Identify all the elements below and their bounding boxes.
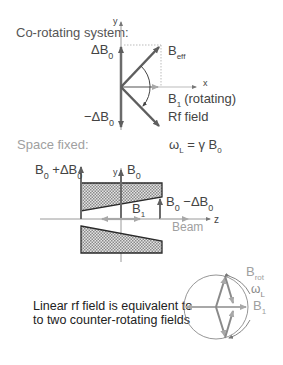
y-axis-label: y (113, 16, 118, 26)
caption-line2: to two counter-rotating fields (33, 313, 190, 327)
b0-minus-label: B0 −ΔB0 (166, 194, 213, 213)
b1-label: B1 (132, 201, 146, 219)
b0-plus-label: B0 +ΔB0 (35, 162, 82, 181)
beam-label: Beam (172, 220, 203, 234)
y-axis-fixed-label: y (113, 167, 118, 177)
b-eff-arrow (121, 47, 159, 87)
z-axis-label: z (214, 214, 219, 225)
b-rot-sum-upper-arrow (225, 276, 233, 303)
minus-delta-b0-label: −ΔB0 (84, 109, 114, 128)
b-rot-up-arrow (216, 278, 225, 307)
rf-field-arrow (121, 87, 159, 126)
b1-linear-label: B1 (253, 298, 267, 316)
caption-line1: Linear rf field is equivalent to (33, 299, 192, 313)
x-axis-label: x (203, 78, 208, 88)
corotating-diagram: Co-rotating system: y x ΔB0 −ΔB0 Beff B1… (16, 16, 236, 130)
delta-b0-label: ΔB0 (91, 42, 113, 61)
b1-rotating-label: B1(rotating) (168, 91, 236, 109)
omega-l-label: ωL (251, 282, 265, 299)
physics-diagram: Co-rotating system: y x ΔB0 −ΔB0 Beff B1… (0, 0, 283, 365)
larmor-equation: ωL = γ B0 (169, 137, 222, 155)
b-eff-label: Beff (168, 43, 186, 61)
space-fixed-diagram: Space fixed: ωL = γ B0 y z B0 +ΔB0 B0 B0… (17, 137, 222, 262)
counter-rotating-diagram: Linear rf field is equivalent to to two … (33, 264, 267, 339)
b-rot-down-arrow (216, 307, 225, 336)
corotating-heading: Co-rotating system: (16, 25, 129, 40)
b0-label: B0 (127, 162, 141, 181)
rf-field-label: Rf field (168, 109, 208, 124)
b-rot-sum-lower-arrow (225, 311, 233, 338)
space-fixed-heading: Space fixed: (17, 137, 89, 152)
b-rot-label: Brot (246, 264, 265, 282)
